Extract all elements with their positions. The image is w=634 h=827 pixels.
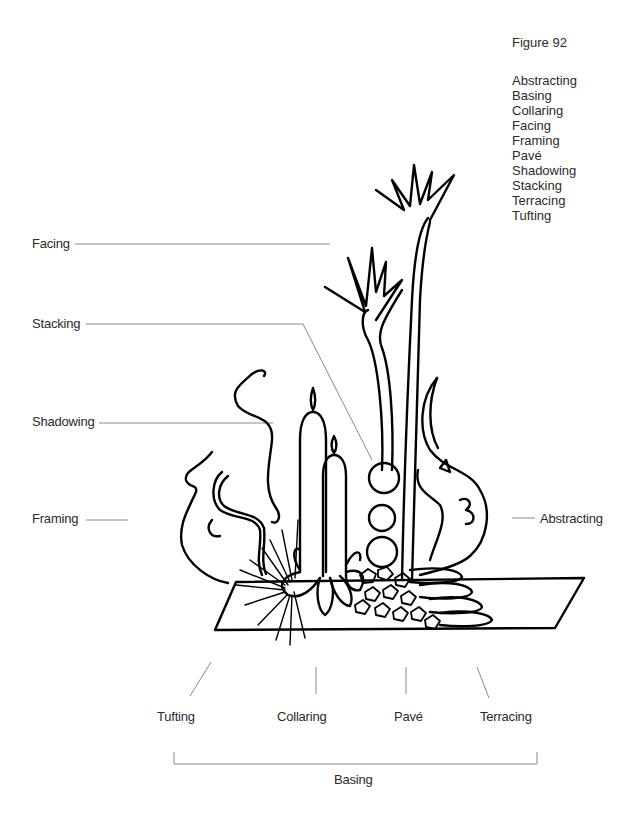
floral-arrangement-illustration xyxy=(0,0,634,827)
sphere-mid xyxy=(369,505,395,531)
shadowing-swirl xyxy=(235,370,279,522)
leader-lines xyxy=(75,244,537,764)
tall-stem xyxy=(402,218,428,580)
arrangement-drawing xyxy=(181,165,584,645)
sphere-bottom xyxy=(367,537,397,567)
sphere-top xyxy=(369,463,399,493)
